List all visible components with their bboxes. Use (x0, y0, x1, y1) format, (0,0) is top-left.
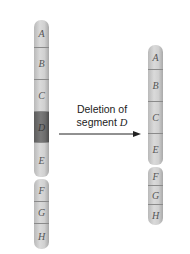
segment-label: H (38, 231, 45, 242)
caption-line-2: segment D (62, 116, 142, 129)
segment-label: E (38, 155, 44, 166)
segment-c: C (34, 80, 49, 112)
segment-b: B (34, 48, 49, 80)
segment-b: B (148, 70, 163, 102)
segment-label: A (38, 28, 44, 39)
segment-variable: D (120, 117, 128, 128)
segment-g: G (148, 186, 163, 205)
segment-label: G (38, 207, 45, 218)
segment-label: C (152, 112, 159, 123)
segment-c: C (148, 102, 163, 134)
caption-line-1: Deletion of (62, 103, 142, 116)
segment-label: A (152, 52, 158, 63)
segment-f: F (34, 179, 49, 202)
segment-label: C (38, 90, 45, 101)
segment-label: B (152, 80, 158, 91)
deleted-chromosome: A B C E F G H (148, 45, 163, 225)
segment-d-deleted: D (34, 112, 49, 143)
segment-label: G (152, 190, 159, 201)
segment-label: D (38, 122, 45, 133)
segment-label: F (152, 171, 158, 182)
segment-e: E (148, 134, 163, 165)
segment-f: F (148, 167, 163, 186)
segment-a: A (34, 20, 49, 48)
deletion-caption: Deletion of segment D (62, 103, 142, 129)
segment-h: H (34, 224, 49, 249)
segment-a: A (148, 45, 163, 70)
segment-label: B (38, 58, 44, 69)
arrow-right-icon (59, 131, 141, 137)
segment-label: F (38, 185, 44, 196)
original-chromosome: A B C D E F G H (34, 20, 49, 249)
segment-label: H (152, 210, 159, 221)
segment-e: E (34, 143, 49, 177)
segment-h: H (148, 205, 163, 225)
segment-g: G (34, 202, 49, 224)
segment-label: E (152, 144, 158, 155)
